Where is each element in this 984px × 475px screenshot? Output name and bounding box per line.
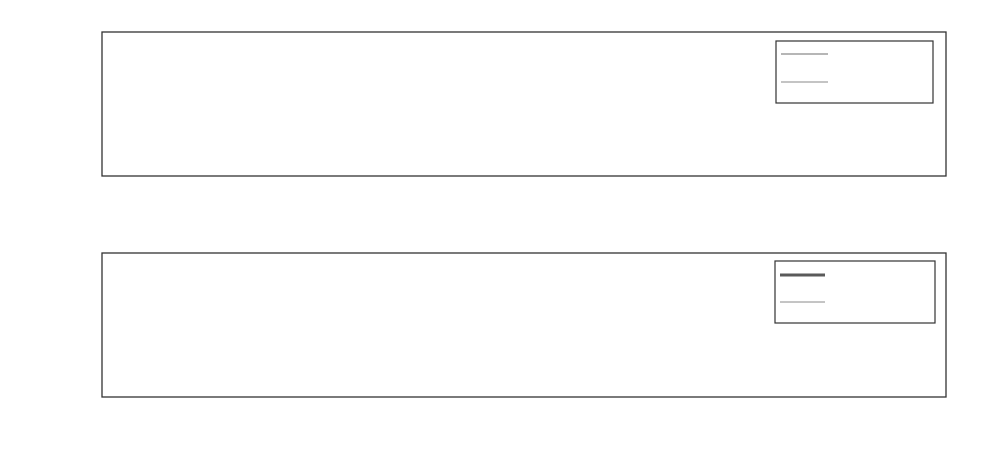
current-plot — [0, 0, 946, 176]
legend-top — [0, 0, 933, 103]
figure — [0, 0, 984, 475]
